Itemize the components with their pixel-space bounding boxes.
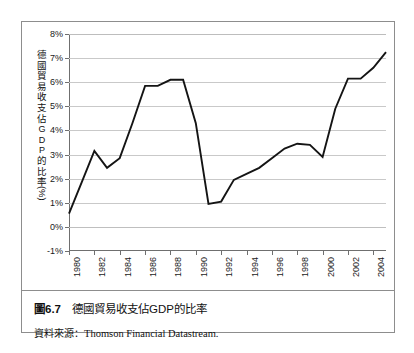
y-tick-label: 5% <box>50 102 63 111</box>
x-tick-label: 1996 <box>276 257 285 277</box>
y-tick-label: 6% <box>50 78 63 87</box>
y-tick-label: 3% <box>50 150 63 159</box>
figure-caption-text: 德國貿易收支佔GDP的比率 <box>72 303 207 315</box>
x-tick-label: 1992 <box>225 257 234 277</box>
series-polyline <box>69 52 386 214</box>
x-tick-mark <box>348 251 349 255</box>
x-tick-mark <box>221 251 222 255</box>
x-tick-label: 1998 <box>301 257 310 277</box>
x-tick-mark <box>69 251 70 255</box>
plot-area: 8%7%6%5%4%3%2%1%0%-1% 198019821984198619… <box>69 34 386 251</box>
source-text: Thomson Financial Datastream. <box>84 328 218 339</box>
x-tick-mark <box>170 251 171 255</box>
y-tick-label: 8% <box>50 30 63 39</box>
y-axis-title-char: D <box>31 135 53 146</box>
source-label: 資料來源： <box>34 328 84 339</box>
x-tick-mark <box>297 251 298 255</box>
x-tick-label: 1986 <box>149 257 158 277</box>
figure-caption: 圖6.7德國貿易收支佔GDP的比率 <box>34 300 382 316</box>
y-tick-label: -1% <box>47 247 63 256</box>
x-tick-label: 1984 <box>124 257 133 277</box>
x-tick-label: 2000 <box>327 257 336 277</box>
x-tick-mark <box>373 251 374 255</box>
y-axis-title-char: 佔 <box>31 114 53 125</box>
data-series-line <box>69 34 386 251</box>
y-tick-label: 0% <box>50 222 63 231</box>
x-tick-mark <box>272 251 273 255</box>
x-tick-label: 2002 <box>352 257 361 277</box>
x-tick-label: 1994 <box>251 257 260 277</box>
x-tick-label: 1988 <box>174 257 183 277</box>
x-tick-label: 2004 <box>377 257 386 277</box>
x-tick-label: 1980 <box>73 257 82 277</box>
y-axis-title-unit: (%) <box>37 182 48 204</box>
figure-container: 德國貿易收支佔GDP的比率(%) 8%7%6%5%4%3%2%1%0%-1% 1… <box>21 21 395 333</box>
figure-number: 圖6.7 <box>34 303 61 315</box>
x-tick-mark <box>196 251 197 255</box>
caption-block: 圖6.7德國貿易收支佔GDP的比率 資料來源：Thomson Financial… <box>22 291 394 340</box>
x-tick-mark <box>120 251 121 255</box>
chart-region: 德國貿易收支佔GDP的比率(%) 8%7%6%5%4%3%2%1%0%-1% 1… <box>22 22 396 290</box>
x-tick-mark <box>145 251 146 255</box>
x-tick-label: 1982 <box>98 257 107 277</box>
x-tick-mark <box>323 251 324 255</box>
y-tick-label: 1% <box>50 198 63 207</box>
x-tick-mark <box>247 251 248 255</box>
figure-source: 資料來源：Thomson Financial Datastream. <box>34 325 382 340</box>
x-tick-label: 1990 <box>200 257 209 277</box>
y-tick-label: 7% <box>50 54 63 63</box>
x-tick-mark <box>94 251 95 255</box>
y-tick-label: 2% <box>50 174 63 183</box>
y-tick-label: 4% <box>50 126 63 135</box>
